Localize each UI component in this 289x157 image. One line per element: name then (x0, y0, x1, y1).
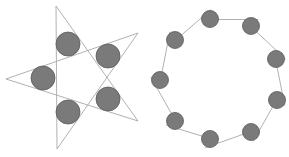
shaded-circle (96, 87, 120, 111)
five-point-star-figure (6, 6, 138, 149)
shaded-circle (243, 18, 260, 35)
shaded-circle (152, 72, 169, 89)
shaded-circle (56, 100, 80, 124)
shaded-circle (167, 32, 184, 49)
shaded-circle (243, 124, 260, 141)
diagram-canvas (0, 0, 289, 157)
shaded-circle (31, 66, 55, 90)
nine-circle-ring-figure (151, 9, 286, 147)
shaded-circle (202, 11, 219, 28)
shaded-circle (202, 131, 219, 148)
shaded-circle (167, 113, 184, 130)
shaded-circle (269, 92, 286, 109)
geometric-figures (0, 0, 289, 157)
star-edge-line (56, 6, 57, 149)
shaded-circle (56, 32, 80, 56)
shaded-circle (96, 44, 120, 68)
shaded-circle (268, 51, 285, 68)
